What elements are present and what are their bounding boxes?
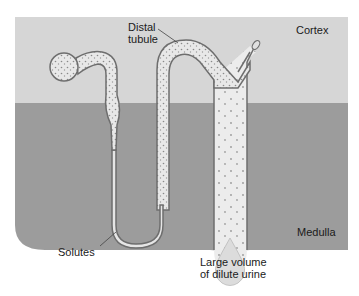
label-medulla: Medulla	[297, 226, 336, 238]
label-solutes: Solutes	[58, 246, 95, 258]
medulla-region	[15, 103, 348, 262]
nephron-diagram	[0, 0, 359, 296]
label-cortex: Cortex	[296, 24, 328, 36]
label-urine: Large volume of dilute urine	[200, 256, 267, 280]
glomerulus	[50, 53, 78, 81]
label-distal-tubule: Distal tubule	[128, 21, 158, 45]
